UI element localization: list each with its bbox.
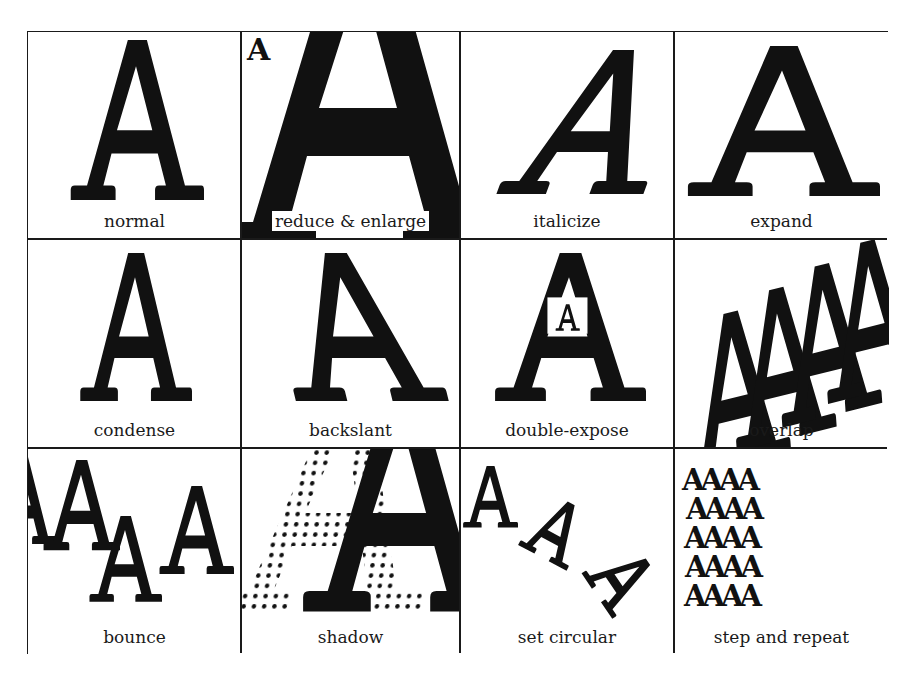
- caption-bounce: bounce: [28, 627, 241, 647]
- cell-set-circular: set circular: [460, 448, 674, 655]
- caption-condense: condense: [28, 420, 241, 440]
- letter-a-italic-icon: [496, 50, 646, 194]
- cell-shadow: shadow: [241, 448, 460, 655]
- cell-normal: normal: [28, 32, 241, 239]
- cell-condense: condense: [28, 239, 241, 448]
- cell-overlap: overlap: [674, 239, 889, 448]
- cell-bounce: bounce: [28, 448, 241, 655]
- caption-set-circular: set circular: [460, 627, 674, 647]
- repeated-letters-block: AAAA AAAA AAAA AAAA AAAA: [682, 466, 760, 611]
- letter-a-condensed-icon: [78, 253, 192, 401]
- grid-divider-horizontal: [28, 238, 887, 240]
- grid-divider-vertical: [459, 32, 461, 653]
- letter-a-set-circular-icon: [460, 448, 674, 655]
- repeat-row: AAAA: [682, 466, 760, 495]
- caption-normal: normal: [28, 211, 241, 231]
- cell-double-expose: double-expose: [460, 239, 674, 448]
- repeat-row: AAAA: [682, 524, 760, 553]
- letter-a-overlap-icon: [674, 239, 889, 448]
- caption-reduce-enlarge: reduce & enlarge: [241, 211, 460, 231]
- repeat-row: AAAA: [682, 582, 760, 611]
- caption-backslant: backslant: [241, 420, 460, 440]
- cell-backslant: backslant: [241, 239, 460, 448]
- cell-italicize: italicize: [460, 32, 674, 239]
- cell-step-and-repeat: AAAA AAAA AAAA AAAA AAAA step and repeat: [674, 448, 889, 655]
- cell-reduce-enlarge: A reduce & enlarge: [241, 32, 460, 239]
- small-letter-a: A: [245, 34, 272, 66]
- grid-divider-horizontal: [28, 447, 887, 449]
- repeat-row: AAAA: [682, 553, 760, 582]
- letter-a-double-expose-icon: [492, 253, 646, 401]
- letter-a-expanded-icon: [684, 46, 880, 196]
- letter-a-normal-icon: [68, 40, 204, 200]
- caption-expand: expand: [674, 211, 889, 231]
- caption-overlap: overlap: [674, 420, 889, 440]
- letter-a-enlarged-icon: [241, 32, 460, 239]
- repeat-row: AAAA: [682, 495, 760, 524]
- letter-a-shadow-icon: [241, 448, 460, 655]
- letter-a-bounce-icon: [28, 448, 241, 655]
- grid-divider-vertical: [673, 32, 675, 653]
- typographic-effects-grid: normal A reduce & enlarge italicize expa…: [27, 31, 888, 654]
- caption-italicize: italicize: [460, 211, 674, 231]
- caption-step-and-repeat: step and repeat: [674, 627, 889, 647]
- caption-double-expose: double-expose: [460, 420, 674, 440]
- letter-a-backslant-icon: [275, 253, 431, 401]
- cell-expand: expand: [674, 32, 889, 239]
- grid-divider-vertical: [240, 32, 242, 653]
- caption-shadow: shadow: [241, 627, 460, 647]
